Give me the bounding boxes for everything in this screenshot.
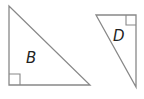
triangle-b: B (9, 6, 90, 85)
triangle-d: D (96, 15, 136, 87)
triangle-b-label: B (26, 49, 36, 67)
triangle-d-label: D (113, 27, 125, 45)
triangle-b-shape (9, 6, 90, 85)
triangles-diagram: B D (0, 0, 144, 99)
triangle-d-shape (96, 15, 136, 87)
